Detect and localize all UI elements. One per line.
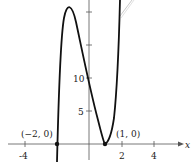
annotation-label: (−2, 0) [21, 129, 53, 139]
y-tick-label: 10 [73, 74, 85, 84]
y-tick-label: 5 [78, 107, 84, 117]
x-tick-label: -4 [19, 151, 28, 161]
graph: x -4 2 4 5 10 (−2, 0) (1, 0) [0, 0, 192, 168]
decorative-line [121, 0, 134, 18]
x-tick-label: 4 [151, 151, 157, 161]
x-axis-arrow-icon [178, 142, 184, 147]
x-axis-label: x [185, 140, 190, 150]
curve [57, 0, 120, 162]
point-1-0 [103, 142, 107, 146]
annotation-label: (1, 0) [116, 129, 140, 139]
decorative-line [120, 0, 132, 16]
x-tick-label: 2 [119, 151, 125, 161]
point-minus-2-0 [55, 142, 59, 146]
